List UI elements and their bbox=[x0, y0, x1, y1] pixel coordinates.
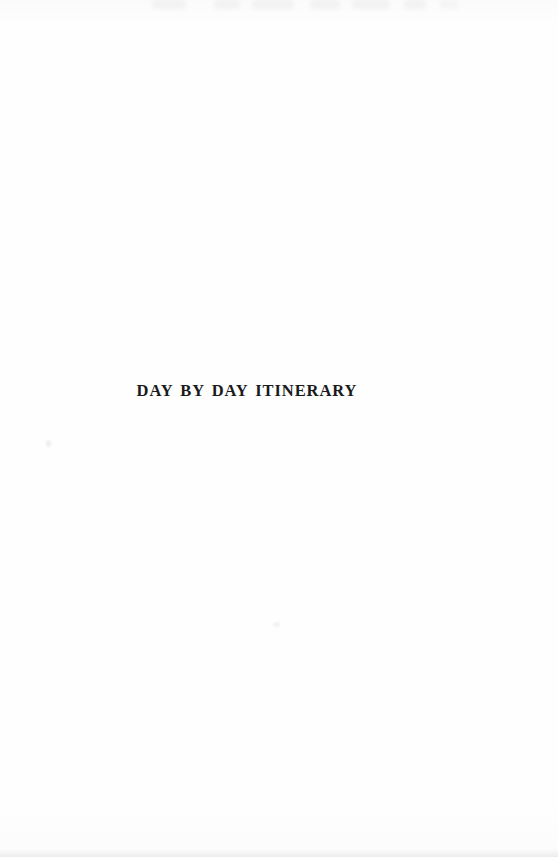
bleed-smudge bbox=[404, 0, 426, 9]
scan-speck bbox=[46, 440, 51, 447]
bleed-smudge bbox=[352, 0, 390, 9]
scan-speck bbox=[273, 622, 280, 627]
bleed-smudge bbox=[252, 0, 294, 9]
paper-tone-overlay bbox=[0, 0, 558, 857]
bleed-smudge bbox=[214, 0, 240, 9]
bleed-smudge bbox=[440, 0, 458, 9]
top-edge-bleed-through bbox=[0, 0, 558, 11]
bleed-smudge bbox=[310, 0, 340, 9]
section-heading-block: DAY BY DAY ITINERARY bbox=[0, 381, 494, 401]
bleed-smudge bbox=[152, 0, 186, 9]
scanned-page: DAY BY DAY ITINERARY bbox=[0, 0, 558, 857]
bottom-edge-shading bbox=[0, 849, 558, 857]
page-title: DAY BY DAY ITINERARY bbox=[137, 381, 358, 401]
